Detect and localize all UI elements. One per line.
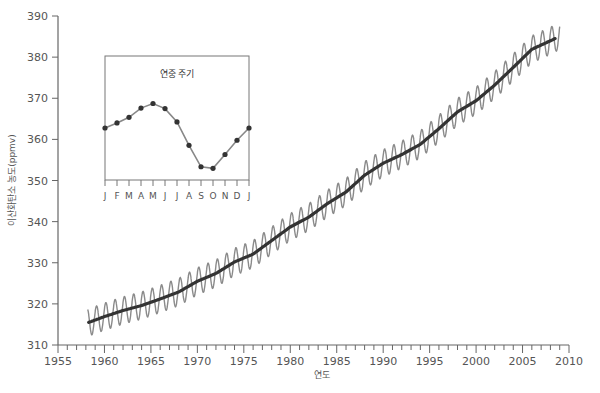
- inset-month-label: M: [149, 191, 157, 201]
- inset-data-point: [234, 138, 239, 143]
- inset-data-point: [222, 152, 227, 157]
- inset-month-label: D: [234, 191, 241, 201]
- inset-data-point: [174, 119, 179, 124]
- y-tick-label: 340: [27, 216, 48, 229]
- inset-month-label: J: [163, 191, 167, 201]
- inset-data-point: [246, 125, 251, 130]
- x-axis: 1955196019651970197519801985199019952000…: [44, 345, 583, 368]
- x-tick-label: 1955: [44, 355, 72, 368]
- inset-month-label: A: [138, 191, 145, 201]
- inset-data-point: [162, 106, 167, 111]
- x-tick-label: 1980: [276, 355, 304, 368]
- y-tick-label: 310: [27, 339, 48, 352]
- x-tick-label: 1990: [369, 355, 397, 368]
- x-axis-title: 연도: [314, 370, 330, 380]
- y-tick-label: 330: [27, 257, 48, 270]
- inset-data-point: [138, 106, 143, 111]
- inset-data-point: [186, 143, 191, 148]
- y-axis-title: 이산화탄소 농도(ppmv): [7, 134, 17, 225]
- inset-month-label: J: [175, 191, 179, 201]
- co2-chart: 310320330340350360370380390 195519601965…: [0, 0, 600, 393]
- x-tick-label: 1960: [90, 355, 118, 368]
- inset-month-label: J: [103, 191, 107, 201]
- inset-data-point: [102, 125, 107, 130]
- x-tick-label: 1985: [323, 355, 351, 368]
- x-tick-label: 2005: [509, 355, 537, 368]
- x-tick-label: 2000: [462, 355, 490, 368]
- y-tick-label: 350: [27, 175, 48, 188]
- inset-month-label: F: [114, 191, 119, 201]
- y-tick-label: 380: [27, 51, 48, 64]
- inset-data-point: [210, 166, 215, 171]
- inset-month-label: N: [222, 191, 229, 201]
- inset-month-label: S: [198, 191, 204, 201]
- inset-data-point: [126, 115, 131, 120]
- inset-title: 연중 주기: [160, 69, 195, 79]
- inset-data-point: [198, 164, 203, 169]
- inset-month-label: M: [125, 191, 133, 201]
- y-tick-label: 320: [27, 298, 48, 311]
- y-tick-label: 370: [27, 92, 48, 105]
- inset-data-point: [150, 101, 155, 106]
- inset-data-point: [114, 120, 119, 125]
- inset-chart: 연중 주기 JFMAMJJASONDJ: [102, 56, 251, 201]
- inset-month-label: A: [186, 191, 193, 201]
- inset-month-label: O: [209, 191, 216, 201]
- x-tick-label: 1970: [183, 355, 211, 368]
- x-tick-label: 2010: [555, 355, 583, 368]
- y-tick-label: 360: [27, 133, 48, 146]
- x-tick-label: 1975: [230, 355, 258, 368]
- y-axis: 310320330340350360370380390: [27, 10, 58, 352]
- inset-month-label: J: [247, 191, 251, 201]
- y-tick-label: 390: [27, 10, 48, 23]
- x-tick-label: 1995: [416, 355, 444, 368]
- x-tick-label: 1965: [137, 355, 165, 368]
